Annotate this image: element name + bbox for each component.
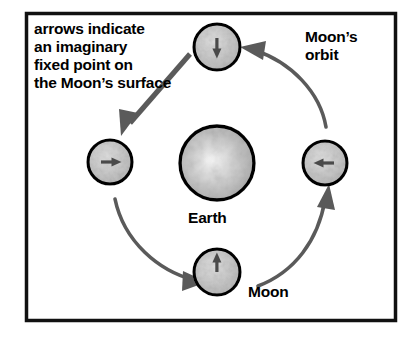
earth-body — [180, 126, 254, 200]
moon-left — [88, 140, 132, 184]
moon-right — [303, 141, 347, 185]
moon-orbit-diagram: arrows indicate an imaginary fixed point… — [0, 0, 418, 343]
diagram-canvas — [0, 0, 418, 343]
moon-bottom — [194, 249, 240, 295]
moon-top — [194, 24, 240, 70]
